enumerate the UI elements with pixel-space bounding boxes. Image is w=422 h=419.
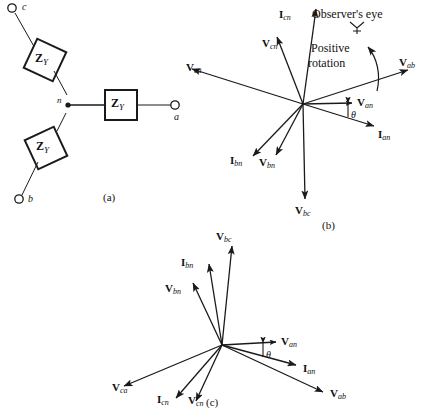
- impedance-c-subscript: Y: [43, 57, 48, 67]
- theta-label-c: θ: [266, 350, 271, 360]
- impedance-a-label: ZY: [111, 97, 124, 109]
- impedance-a-symbol: Z: [111, 96, 119, 110]
- label-b-Vbc-symbol: V: [295, 204, 303, 216]
- theta-label-b: θ: [351, 110, 356, 120]
- label-b-Vab-subscript: ab: [407, 61, 415, 70]
- label-b-Van-subscript: an: [365, 101, 373, 110]
- label-c-Vab: Vab: [330, 388, 346, 399]
- label-c-Van: Van: [281, 336, 297, 347]
- neutral-label-n: n: [57, 96, 62, 105]
- phasor-c-Van: [222, 342, 276, 345]
- positive-rotation-note-line2: rotation: [308, 57, 345, 69]
- impedance-a-subscript: Y: [119, 102, 124, 112]
- label-c-Vbc-subscript: bc: [224, 235, 232, 244]
- label-b-Ian: Ian: [378, 129, 390, 140]
- phasor-b-Vbc: [303, 104, 305, 199]
- label-c-Vca-symbol: V: [112, 381, 120, 393]
- label-c-Vca: Vca: [112, 382, 128, 393]
- label-c-Vcn-symbol: V: [188, 394, 196, 406]
- label-b-Van: Van: [357, 97, 373, 108]
- label-c-Vbn: Vbn: [165, 283, 181, 294]
- label-c-Ian: Ian: [303, 363, 315, 374]
- phasor-b-Vbn: [276, 104, 303, 155]
- label-b-Vcn: Vcn: [262, 38, 278, 49]
- label-b-Van-symbol: V: [357, 96, 365, 108]
- impedance-b-symbol: Z: [36, 139, 44, 153]
- label-b-Vbc: Vbc: [295, 205, 311, 216]
- terminal-a[interactable]: [171, 101, 179, 109]
- label-c-Icn: Icn: [157, 394, 169, 405]
- label-c-Vbc-symbol: V: [216, 230, 224, 242]
- label-b-Ibn-subscript: bn: [234, 159, 242, 168]
- label-b-Vbc-subscript: bc: [303, 209, 311, 218]
- label-b-Vbn-symbol: V: [259, 156, 267, 168]
- caption-c: (c): [206, 397, 218, 408]
- label-c-Vcn-subscript: cn: [196, 399, 204, 408]
- label-b-Vbn-subscript: bn: [267, 161, 275, 170]
- phasor-b-Vcn: [277, 37, 303, 104]
- positive-rotation-arc-b: [368, 47, 379, 91]
- terminal-c[interactable]: [8, 4, 16, 12]
- terminal-label-c: c: [22, 2, 26, 12]
- wire-n-to-b: [57, 113, 66, 131]
- label-c-Ibn-subscript: bn: [185, 261, 193, 270]
- panel-a-circuit: [8, 4, 179, 203]
- label-b-Icn: Icn: [279, 9, 291, 20]
- caption-b: (b): [322, 220, 335, 231]
- label-c-Vbc: Vbc: [216, 231, 232, 242]
- label-c-Vab-subscript: ab: [338, 392, 346, 401]
- phasor-b-Vab: [303, 70, 408, 104]
- impedance-b-label: ZY: [36, 140, 49, 152]
- impedance-c-symbol: Z: [35, 51, 43, 65]
- label-b-Vca-symbol: V: [186, 61, 194, 73]
- phasor-c-Vcn: [196, 345, 222, 401]
- label-c-Van-subscript: an: [289, 340, 297, 349]
- impedance-c-label: ZY: [35, 52, 48, 64]
- observers-eye-note: Observer's eye: [312, 8, 382, 20]
- panel-c-phasors: [124, 246, 323, 401]
- label-c-Icn-subscript: cn: [161, 398, 169, 407]
- wire-c-to-n: [54, 71, 67, 95]
- wire-c: [15, 13, 36, 50]
- label-c-Ian-subscript: an: [307, 367, 315, 376]
- label-b-Vbn: Vbn: [259, 157, 275, 168]
- label-c-Ibn: Ibn: [181, 257, 193, 268]
- observers-eye-icon: [350, 22, 364, 34]
- label-b-Ian-subscript: an: [382, 133, 390, 142]
- label-c-Vab-symbol: V: [330, 387, 338, 399]
- panel-b-phasors: [192, 9, 408, 199]
- label-c-Van-symbol: V: [281, 335, 289, 347]
- impedance-b-subscript: Y: [44, 145, 49, 155]
- phasor-c-Vca: [124, 345, 222, 386]
- phasor-b-Vca: [192, 69, 303, 104]
- label-b-Icn-subscript: cn: [283, 13, 291, 22]
- phasor-c-Icn: [176, 345, 222, 398]
- label-b-Vca-subscript: ca: [194, 66, 202, 75]
- terminal-b[interactable]: [15, 195, 23, 203]
- figure-root: c a b n ZY ZY ZY (a) Observer's eye Posi…: [0, 0, 422, 419]
- label-b-Vcn-subscript: cn: [270, 42, 278, 51]
- phasor-c-Vbc: [222, 246, 232, 345]
- figure-canvas: [0, 0, 422, 419]
- label-b-Vca: Vca: [186, 62, 202, 73]
- label-b-Vab: Vab: [399, 57, 415, 68]
- phasor-b-Van: [303, 103, 352, 104]
- label-b-Vcn-symbol: V: [262, 37, 270, 49]
- wire-b-lead: [22, 162, 38, 195]
- label-b-Vab-symbol: V: [399, 56, 407, 68]
- label-c-Vbn-subscript: bn: [173, 287, 181, 296]
- caption-a: (a): [103, 192, 115, 203]
- label-b-Ibn: Ibn: [230, 155, 242, 166]
- phasor-b-Ibn: [253, 104, 303, 156]
- terminal-label-a: a: [174, 112, 179, 122]
- terminal-label-b: b: [28, 194, 33, 204]
- label-c-Vbn-symbol: V: [165, 282, 173, 294]
- phasor-c-Ibn: [209, 264, 222, 345]
- positive-rotation-note-line1: Positive: [311, 42, 350, 54]
- label-c-Vcn: Vcn: [188, 395, 204, 406]
- label-c-Vca-subscript: ca: [120, 386, 128, 395]
